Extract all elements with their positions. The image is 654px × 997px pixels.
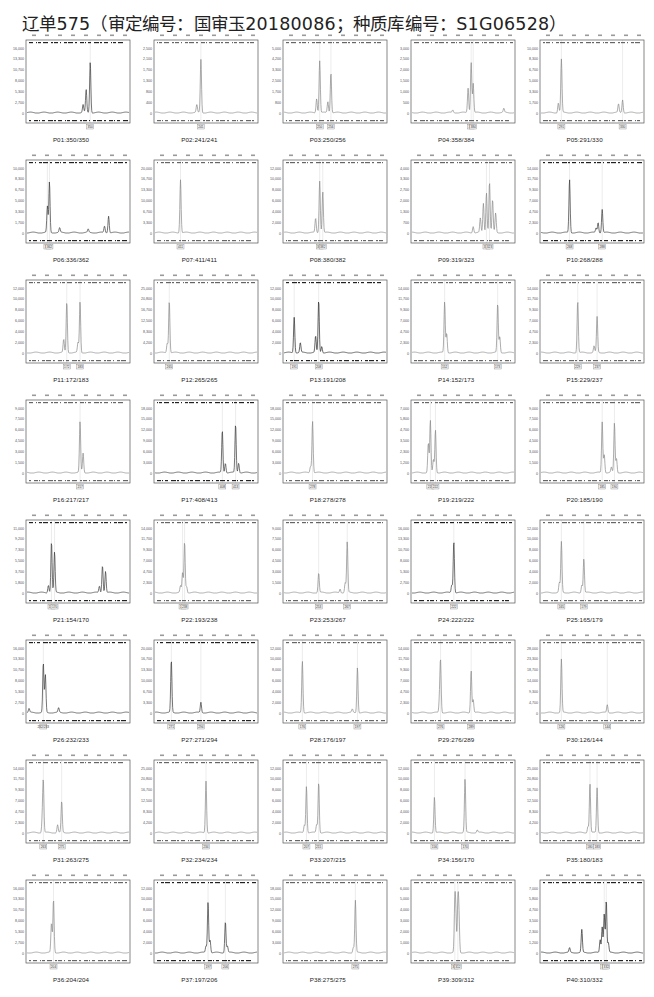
svg-text:276: 276 <box>438 725 444 729</box>
svg-text:8,300: 8,300 <box>529 57 538 61</box>
panel-label: P07:411/411 <box>136 256 262 263</box>
svg-text:0: 0 <box>407 232 409 236</box>
panel-label: P35:180/183 <box>522 856 648 863</box>
svg-text:278: 278 <box>310 485 316 489</box>
chart-panel-p24: 02,7005,3008,00010,70013,30016,000222P24… <box>393 513 519 631</box>
svg-text:12,000: 12,000 <box>13 287 24 291</box>
svg-text:9,000: 9,000 <box>15 407 24 411</box>
svg-text:14,000: 14,000 <box>141 527 152 531</box>
svg-text:323: 323 <box>487 245 493 249</box>
chart-panel-p25: 02,0004,0006,0008,00010,00012,000165179P… <box>522 513 648 631</box>
svg-text:12,000: 12,000 <box>270 767 281 771</box>
svg-text:10,000: 10,000 <box>527 47 538 51</box>
panel-label: P16:217/217 <box>8 496 134 503</box>
svg-text:253: 253 <box>316 605 322 609</box>
svg-text:4,200: 4,200 <box>529 821 538 825</box>
chart-panel-p05: 01,7003,3005,0006,7008,30010,000291330P0… <box>522 33 648 151</box>
svg-text:0: 0 <box>22 952 24 956</box>
trace-line <box>284 181 386 233</box>
svg-text:16,700: 16,700 <box>527 788 538 792</box>
svg-text:18,000: 18,000 <box>141 407 152 411</box>
electropherogram-plot: 01,2002,3003,5004,7005,8007,000310332 <box>522 873 648 977</box>
svg-text:5,000: 5,000 <box>15 199 24 203</box>
svg-text:3,500: 3,500 <box>400 439 409 443</box>
panel-label: P32:234/234 <box>136 856 262 863</box>
svg-text:18,000: 18,000 <box>270 407 281 411</box>
svg-text:2,000: 2,000 <box>529 581 538 585</box>
chart-panel-p33: 02,0004,0006,0008,00010,00012,000207215P… <box>265 753 391 871</box>
panel-label: P18:278/278 <box>265 496 391 503</box>
svg-text:0: 0 <box>22 352 24 356</box>
svg-text:7,000: 7,000 <box>529 319 538 323</box>
svg-text:0: 0 <box>150 112 152 116</box>
svg-text:18,000: 18,000 <box>270 887 281 891</box>
chart-panel-p35: 04,2008,30012,50016,70020,80025,00018018… <box>522 753 648 871</box>
panel-label: P14:152/173 <box>393 376 519 383</box>
svg-text:11,700: 11,700 <box>142 537 153 541</box>
electropherogram-plot: 01,7003,3005,0006,7008,30010,000336362 <box>8 153 134 257</box>
svg-text:9,000: 9,000 <box>272 439 281 443</box>
svg-text:25,000: 25,000 <box>141 287 152 291</box>
svg-text:2,000: 2,000 <box>15 341 24 345</box>
chart-panel-p22: 02,3004,7007,0009,30011,70014,000193238P… <box>136 513 262 631</box>
electropherogram-plot: 01,5003,0004,5006,0007,5009,000217 <box>8 393 134 497</box>
svg-text:7,300: 7,300 <box>15 548 24 552</box>
trace-line <box>27 780 129 833</box>
svg-text:9,300: 9,300 <box>143 548 152 552</box>
svg-text:14,000: 14,000 <box>13 767 24 771</box>
electropherogram-plot: 01,0002,0003,0004,0005,0006,000309312 <box>393 873 519 977</box>
chart-panel-p09: 07001,3002,0002,7003,3004,000319323P09:3… <box>393 153 519 271</box>
svg-text:20,000: 20,000 <box>141 647 152 651</box>
trace-line <box>412 420 514 473</box>
svg-text:20,800: 20,800 <box>141 777 152 781</box>
svg-text:179: 179 <box>581 605 587 609</box>
svg-text:170: 170 <box>463 845 469 849</box>
svg-text:2,500: 2,500 <box>143 47 152 51</box>
svg-text:12,500: 12,500 <box>141 799 152 803</box>
trace-line <box>541 59 643 113</box>
svg-text:3,000: 3,000 <box>529 450 538 454</box>
svg-text:2,300: 2,300 <box>529 341 538 345</box>
trace-line <box>155 903 257 953</box>
electropherogram-plot: 07001,3002,0002,7003,3004,000319323 <box>393 153 519 257</box>
svg-text:2,300: 2,300 <box>143 581 152 585</box>
svg-text:0: 0 <box>407 592 409 596</box>
chart-panel-p21: 01,8003,7005,5007,3009,20011,000154170P2… <box>8 513 134 631</box>
svg-text:5,500: 5,500 <box>15 559 24 563</box>
svg-text:9,300: 9,300 <box>529 308 538 312</box>
svg-text:13,300: 13,300 <box>13 657 24 661</box>
svg-text:3,000: 3,000 <box>272 461 281 465</box>
svg-text:10,000: 10,000 <box>141 199 152 203</box>
svg-text:382: 382 <box>320 245 326 249</box>
chart-panel-p23: 01,5003,0004,5006,0007,5009,000253267P23… <box>265 513 391 631</box>
svg-text:13,300: 13,300 <box>141 668 152 672</box>
svg-text:170: 170 <box>52 605 58 609</box>
svg-text:1,500: 1,500 <box>272 581 281 585</box>
svg-text:2,000: 2,000 <box>143 941 152 945</box>
svg-text:1,700: 1,700 <box>15 221 24 225</box>
svg-text:0: 0 <box>279 112 281 116</box>
svg-text:3,000: 3,000 <box>272 570 281 574</box>
panel-label: P36:204/204 <box>8 976 134 983</box>
electropherogram-plot: 04,2008,30012,50016,70020,80025,000234 <box>136 753 262 857</box>
svg-text:7,500: 7,500 <box>529 417 538 421</box>
svg-text:6,000: 6,000 <box>400 887 409 891</box>
trace-line <box>27 422 129 473</box>
svg-text:23,300: 23,300 <box>527 657 538 661</box>
svg-text:28,000: 28,000 <box>527 647 538 651</box>
electropherogram-plot: 02,3004,7007,0009,30011,70014,000193238 <box>136 513 262 617</box>
svg-text:9,300: 9,300 <box>400 308 409 312</box>
svg-text:289: 289 <box>469 725 475 729</box>
panel-label: P13:191/208 <box>265 376 391 383</box>
svg-text:10,700: 10,700 <box>13 68 24 72</box>
svg-text:12,000: 12,000 <box>270 647 281 651</box>
svg-text:16,700: 16,700 <box>141 177 152 181</box>
svg-text:263: 263 <box>41 845 47 849</box>
svg-text:8,000: 8,000 <box>272 668 281 672</box>
svg-text:6,000: 6,000 <box>272 548 281 552</box>
panel-label: P09:319/323 <box>393 256 519 263</box>
svg-text:13,300: 13,300 <box>398 537 409 541</box>
chart-panel-p18: 03,0006,0009,00012,00015,00018,000278P18… <box>265 393 391 511</box>
svg-text:10,000: 10,000 <box>527 537 538 541</box>
panel-label: P19:219/222 <box>393 496 519 503</box>
